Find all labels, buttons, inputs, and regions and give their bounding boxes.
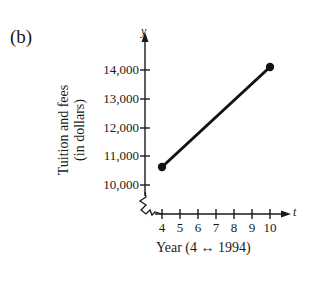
x-axis-arrow-icon bbox=[281, 211, 291, 218]
x-tick-label: 7 bbox=[213, 220, 220, 236]
y-axis-label: Tuition and fees (in dollars) bbox=[56, 85, 88, 175]
x-tick-label: 5 bbox=[177, 220, 184, 236]
data-line bbox=[162, 67, 270, 167]
x-tick-label: 4 bbox=[159, 220, 166, 236]
y-axis-label-line: (in dollars) bbox=[72, 85, 88, 175]
y-tick-label: 10,000 bbox=[103, 177, 139, 193]
x-tick-label: 8 bbox=[231, 220, 238, 236]
y-tick-label: 12,000 bbox=[103, 120, 139, 136]
y-axis-label-line: Tuition and fees bbox=[56, 85, 72, 175]
x-axis-label: Year (4 ↔ 1994) bbox=[156, 240, 251, 256]
x-tick-label: 10 bbox=[264, 220, 277, 236]
x-axis-name: t bbox=[293, 205, 296, 220]
x-tick-label: 6 bbox=[195, 220, 202, 236]
axis-break-icon bbox=[140, 192, 162, 215]
y-tick-label: 14,000 bbox=[103, 62, 139, 78]
y-tick-label: 11,000 bbox=[104, 148, 139, 164]
y-axis-name: y bbox=[141, 24, 146, 39]
data-point bbox=[158, 163, 166, 171]
x-tick-label: 9 bbox=[249, 220, 256, 236]
y-tick-label: 13,000 bbox=[103, 91, 139, 107]
data-point bbox=[266, 63, 274, 71]
